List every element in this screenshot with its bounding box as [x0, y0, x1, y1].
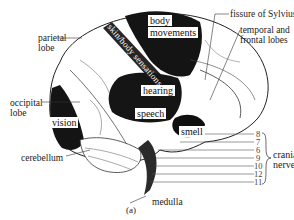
- region-smell: smell: [179, 126, 205, 137]
- label-text: occipital: [10, 98, 43, 108]
- label-text: temporal and: [240, 25, 290, 35]
- label-medulla: medulla: [152, 197, 183, 207]
- region-body-movements-2: movements: [148, 27, 198, 38]
- label-text: parietal: [38, 33, 66, 43]
- label-temporal-frontal-lobes: temporal and frontal lobes: [240, 25, 290, 45]
- brain-diagram: parietal lobe occipital lobe cerebellum …: [0, 0, 294, 220]
- label-fissure-of-sylvius: fissure of Sylvius: [230, 9, 294, 19]
- region-vision: vision: [50, 117, 78, 128]
- label-text: lobe: [10, 108, 43, 118]
- label-text: frontal lobes: [240, 35, 290, 45]
- cranial-nerve-number: 11: [254, 178, 262, 187]
- label-occipital-lobe: occipital lobe: [10, 98, 43, 118]
- region-body-movements: body: [148, 15, 172, 26]
- label-text: lobe: [38, 43, 66, 53]
- label-text: nerves: [273, 160, 294, 170]
- figure-caption: (a): [126, 205, 136, 215]
- label-text: body: [150, 15, 170, 26]
- label-parietal-lobe: parietal lobe: [38, 33, 66, 53]
- region-speech: speech: [135, 108, 166, 119]
- region-hearing: hearing: [141, 85, 175, 96]
- label-cerebellum: cerebellum: [21, 153, 63, 163]
